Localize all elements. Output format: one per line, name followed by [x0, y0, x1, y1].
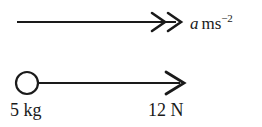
force-label: 12 N [148, 101, 184, 119]
acceleration-arrow [17, 13, 181, 31]
mass-label: 5 kg [10, 101, 42, 119]
force-arrow [38, 72, 184, 94]
mass-circle [16, 72, 38, 94]
acceleration-unit-base: ms [202, 14, 222, 33]
acceleration-unit-exponent: −2 [221, 12, 232, 24]
acceleration-symbol: a [190, 14, 199, 33]
force-diagram: ams−2 5 kg 12 N [0, 0, 262, 127]
acceleration-label: ams−2 [190, 13, 233, 32]
